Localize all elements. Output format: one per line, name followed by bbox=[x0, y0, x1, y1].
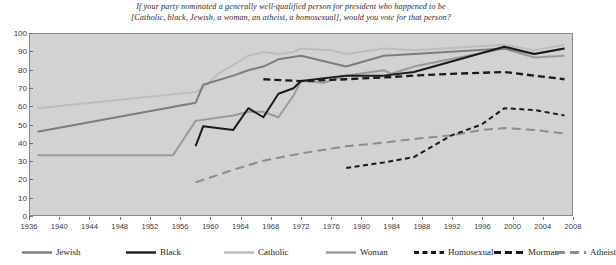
y-axis-tick bbox=[29, 70, 33, 71]
y-axis-tick-label: 70 bbox=[3, 83, 27, 92]
y-axis-tick-label: 100 bbox=[3, 29, 27, 38]
legend-label: Jewish bbox=[56, 247, 81, 257]
x-axis-tick bbox=[241, 217, 242, 220]
x-axis-tick bbox=[452, 217, 453, 220]
legend-item-woman[interactable]: Woman bbox=[326, 247, 388, 257]
y-axis-tick bbox=[29, 216, 33, 217]
x-axis-tick bbox=[482, 217, 483, 220]
x-axis-tick bbox=[150, 217, 151, 220]
x-axis-tick-label: 2004 bbox=[534, 222, 551, 231]
legend-label: Homosexual bbox=[448, 247, 494, 257]
x-axis-tick bbox=[422, 217, 423, 220]
x-axis-tick bbox=[59, 217, 60, 220]
legend-label: Woman bbox=[360, 247, 388, 257]
x-axis-tick-label: 2000 bbox=[504, 222, 521, 231]
y-axis-tick-label: 30 bbox=[3, 157, 27, 166]
legend-item-homosexual[interactable]: Homosexual bbox=[414, 247, 494, 257]
x-axis-tick-label: 1956 bbox=[172, 222, 189, 231]
x-axis-tick-label: 1996 bbox=[474, 222, 491, 231]
x-axis-tick bbox=[361, 217, 362, 220]
y-axis-tick bbox=[29, 161, 33, 162]
y-axis-tick bbox=[29, 179, 33, 180]
legend-item-morman[interactable]: Morman bbox=[494, 247, 559, 257]
chart-title-line-2: [Catholic, black, Jewish, a woman, an at… bbox=[0, 12, 582, 23]
legend-label: Atheist bbox=[590, 247, 616, 257]
series-lines bbox=[30, 34, 572, 215]
legend-item-black[interactable]: Black bbox=[126, 247, 181, 257]
x-axis-tick-label: 1936 bbox=[21, 222, 38, 231]
legend-item-jewish[interactable]: Jewish bbox=[22, 247, 81, 257]
y-axis-tick-label: 80 bbox=[3, 65, 27, 74]
x-axis-tick bbox=[89, 217, 90, 220]
x-axis-tick-label: 1972 bbox=[293, 222, 310, 231]
chart-legend: JewishBlackCatholicWomanHomosexualMorman… bbox=[0, 241, 582, 263]
legend-item-catholic[interactable]: Catholic bbox=[224, 247, 289, 257]
series-line-atheist bbox=[196, 128, 565, 182]
series-line-jewish bbox=[38, 48, 565, 131]
y-axis-tick bbox=[29, 143, 33, 144]
legend-swatch-homosexual bbox=[414, 248, 444, 257]
y-axis-tick-label: 60 bbox=[3, 102, 27, 111]
x-axis-tick-label: 1984 bbox=[383, 222, 400, 231]
chart-title: If your party nominated a generally well… bbox=[0, 1, 582, 23]
legend-swatch-black bbox=[126, 248, 156, 257]
x-axis-tick bbox=[210, 217, 211, 220]
legend-swatch-woman bbox=[326, 248, 356, 257]
x-axis-tick bbox=[543, 217, 544, 220]
y-axis-tick-label: 50 bbox=[3, 120, 27, 129]
x-axis-tick-label: 1980 bbox=[353, 222, 370, 231]
x-axis-tick-label: 1964 bbox=[232, 222, 249, 231]
x-axis-tick-label: 1944 bbox=[81, 222, 98, 231]
x-axis-tick bbox=[120, 217, 121, 220]
x-axis-tick bbox=[29, 217, 30, 220]
legend-label: Catholic bbox=[258, 247, 289, 257]
x-axis-tick bbox=[301, 217, 302, 220]
y-axis-tick bbox=[29, 106, 33, 107]
x-axis-tick bbox=[392, 217, 393, 220]
chart-title-line-1: If your party nominated a generally well… bbox=[0, 1, 582, 12]
x-axis-tick-label: 1976 bbox=[323, 222, 340, 231]
legend-swatch-catholic bbox=[224, 248, 254, 257]
plot-area bbox=[29, 33, 573, 216]
x-axis-tick bbox=[271, 217, 272, 220]
series-line-catholic bbox=[38, 45, 565, 108]
x-axis-tick-label: 1948 bbox=[111, 222, 128, 231]
x-axis-tick-label: 1968 bbox=[262, 222, 279, 231]
y-axis: 0102030405060708090100 bbox=[0, 33, 27, 216]
x-axis-tick bbox=[180, 217, 181, 220]
y-axis-tick bbox=[29, 51, 33, 52]
x-axis-tick-label: 1992 bbox=[444, 222, 461, 231]
x-axis-tick-label: 1988 bbox=[413, 222, 430, 231]
y-axis-tick bbox=[29, 125, 33, 126]
y-axis-tick-label: 40 bbox=[3, 138, 27, 147]
legend-label: Morman bbox=[528, 247, 559, 257]
legend-swatch-atheist bbox=[556, 248, 586, 257]
legend-swatch-jewish bbox=[22, 248, 52, 257]
series-line-woman bbox=[38, 48, 565, 155]
legend-item-atheist[interactable]: Atheist bbox=[556, 247, 616, 257]
x-axis: 1936194019441948195219561960196419681972… bbox=[0, 217, 582, 233]
y-axis-tick bbox=[29, 198, 33, 199]
x-axis-tick bbox=[513, 217, 514, 220]
series-line-black bbox=[196, 47, 565, 147]
x-axis-tick-label: 1960 bbox=[202, 222, 219, 231]
x-axis-tick-label: 1952 bbox=[141, 222, 158, 231]
x-axis-tick-label: 1940 bbox=[51, 222, 68, 231]
y-axis-tick-label: 10 bbox=[3, 193, 27, 202]
y-axis-tick-label: 20 bbox=[3, 175, 27, 184]
x-axis-tick bbox=[573, 217, 574, 220]
legend-label: Black bbox=[160, 247, 181, 257]
x-axis-tick bbox=[331, 217, 332, 220]
y-axis-tick bbox=[29, 88, 33, 89]
y-axis-tick-label: 90 bbox=[3, 47, 27, 56]
x-axis-tick-label: 2008 bbox=[565, 222, 582, 231]
y-axis-tick bbox=[29, 33, 33, 34]
legend-swatch-morman bbox=[494, 248, 524, 257]
series-line-homosexual bbox=[346, 108, 564, 168]
